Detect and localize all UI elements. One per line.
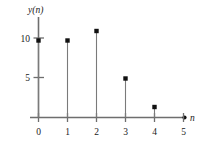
stem-marker-n0: [36, 38, 40, 42]
y-tick-label-10: 10: [21, 34, 31, 44]
stem-marker-n2: [94, 29, 98, 33]
stem-plot-figure: 10 5 0 1 2 3 4 5 y(n) n: [0, 0, 204, 144]
x-tick-label-1: 1: [65, 127, 70, 137]
stem-plot-canvas: 10 5 0 1 2 3 4 5 y(n) n: [0, 0, 204, 144]
x-tick-label-5: 5: [181, 127, 186, 137]
stem-marker-n1: [65, 38, 69, 42]
y-tick-label-5: 5: [25, 73, 30, 83]
plot-background: [0, 0, 204, 144]
y-axis-title: y(n): [27, 5, 43, 16]
x-tick-label-0: 0: [36, 127, 41, 137]
x-tick-label-3: 3: [123, 127, 128, 137]
x-axis-title: n: [190, 113, 195, 123]
stem-marker-n4: [152, 105, 156, 109]
x-tick-label-2: 2: [94, 127, 99, 137]
x-tick-label-4: 4: [152, 127, 157, 137]
stem-marker-n3: [123, 76, 127, 80]
